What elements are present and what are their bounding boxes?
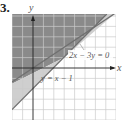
y-axis-label: y (28, 2, 34, 13)
graph: x y 2x − 3y = 0 y = x − 1 (0, 0, 124, 124)
label-2x-3y-0: 2x − 3y = 0 (69, 50, 110, 60)
label-y-x-1: y = x − 1 (40, 73, 73, 83)
x-axis-label: x (116, 62, 122, 73)
